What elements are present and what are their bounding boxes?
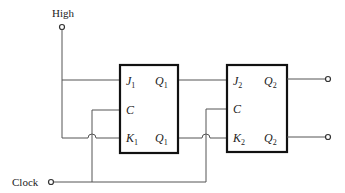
flip-flop-circuit-diagram: High Clock J1 C K1 Q1 (0, 0, 345, 193)
flip-flop-2: J2 C K2 Q2 Q2 (227, 65, 287, 152)
clock-terminal (49, 180, 54, 185)
clock-label: Clock (12, 176, 39, 188)
high-label: High (52, 7, 75, 19)
q2bar-output-terminal (326, 135, 331, 140)
q2-output-terminal (326, 77, 331, 82)
output-wires (287, 77, 331, 140)
flip-flop-1: J1 C K1 Q1 Q1 (120, 65, 178, 153)
high-terminal (60, 25, 65, 30)
ff2-c-pin: C (233, 102, 242, 116)
ff1-c-pin: C (126, 103, 135, 117)
high-wire (62, 30, 120, 139)
